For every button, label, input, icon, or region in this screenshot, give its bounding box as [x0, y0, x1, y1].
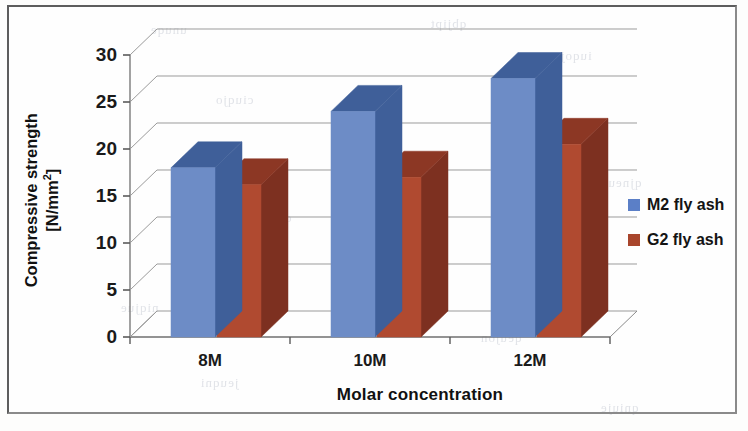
- legend-swatch-icon: [628, 199, 640, 211]
- y-axis-tick-label: 25: [96, 92, 117, 111]
- y-axis-tick-label: 10: [96, 233, 117, 252]
- chart-page: qbjiptunuqeiuqojciuqjoopjuequqjienqjneuq…: [0, 0, 748, 431]
- x-axis-tick-label: 8M: [130, 352, 290, 369]
- y-axis-title-line1: Compressive strength: [22, 113, 40, 287]
- chart-legend: M2 fly ashG2 fly ash: [628, 196, 724, 266]
- legend-item-label: M2 fly ash: [647, 196, 724, 214]
- legend-swatch-icon: [628, 234, 640, 246]
- legend-item-label: G2 fly ash: [647, 231, 723, 249]
- y-axis-tick-label: 0: [106, 327, 117, 346]
- legend-item: G2 fly ash: [628, 231, 724, 249]
- y-axis-tick-label: 5: [106, 280, 117, 299]
- y-axis-tick-label: 30: [96, 45, 117, 64]
- plot-area: 051015202530 8M10M12M Compressive streng…: [0, 0, 748, 431]
- y-axis-tick-labels: 051015202530: [55, 0, 117, 431]
- x-axis-title: Molar concentration: [300, 385, 540, 405]
- y-axis-title-line2: [N/mm2]: [43, 169, 61, 232]
- x-axis-tick-label: 12M: [450, 352, 610, 369]
- x-axis-tick-label: 10M: [290, 352, 450, 369]
- y-axis-title: Compressive strength [N/mm2]: [22, 85, 62, 315]
- y-axis-tick-label: 20: [96, 139, 117, 158]
- y-axis-tick-label: 15: [96, 186, 117, 205]
- legend-item: M2 fly ash: [628, 196, 724, 214]
